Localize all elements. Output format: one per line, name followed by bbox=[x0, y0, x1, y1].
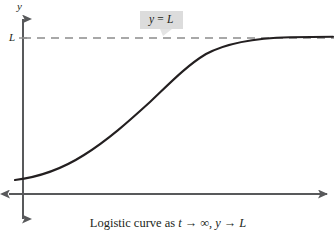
caption-infinity: ∞, bbox=[200, 216, 212, 230]
callout-operator: = bbox=[157, 13, 164, 25]
caption-var-t: t bbox=[178, 216, 181, 230]
figure-caption: Logistic curve ast→∞,y→L bbox=[0, 217, 336, 231]
asymptote-callout-label: y=L bbox=[140, 11, 183, 29]
asymptote-tick-label: L bbox=[9, 32, 15, 43]
plot-canvas bbox=[0, 0, 336, 233]
caption-var-L: L bbox=[239, 216, 246, 230]
caption-arrow-1: → bbox=[185, 216, 198, 230]
caption-arrow-2: → bbox=[224, 216, 237, 230]
logistic-curve-path bbox=[15, 37, 333, 180]
logistic-curve-figure: y L y=L Logistic curve ast→∞,y→L bbox=[0, 0, 336, 233]
callout-lhs: y bbox=[149, 13, 154, 25]
caption-lead: Logistic curve as bbox=[90, 216, 175, 230]
callout-rhs: L bbox=[167, 13, 174, 25]
caption-var-y: y bbox=[215, 216, 221, 230]
callout-pointer-tail bbox=[160, 29, 172, 36]
y-axis-label: y bbox=[17, 1, 22, 12]
